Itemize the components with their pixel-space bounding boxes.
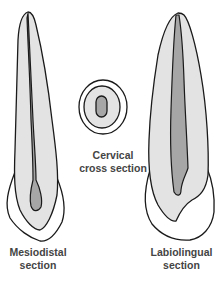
labiolingual-label-line1: Labiolingual [140, 246, 223, 259]
labiolingual-tooth [145, 13, 214, 240]
mesiodistal-section-label: Mesiodistal section [0, 246, 76, 272]
mesiodistal-label-line1: Mesiodistal [0, 246, 76, 259]
labiolingual-label-line2: section [140, 259, 223, 272]
labiolingual-section-label: Labiolingual section [140, 246, 223, 272]
mesiodistal-label-line2: section [0, 259, 76, 272]
cervical-label-line1: Cervical [70, 149, 156, 162]
mesiodistal-tooth [7, 12, 64, 241]
tooth-sections-diagram [0, 0, 223, 281]
cervical-cross-section-label: Cervical cross section [70, 149, 156, 175]
cervical-cross-section [79, 80, 127, 134]
cervical-label-line2: cross section [70, 162, 156, 175]
cervical-pulp [96, 96, 107, 117]
